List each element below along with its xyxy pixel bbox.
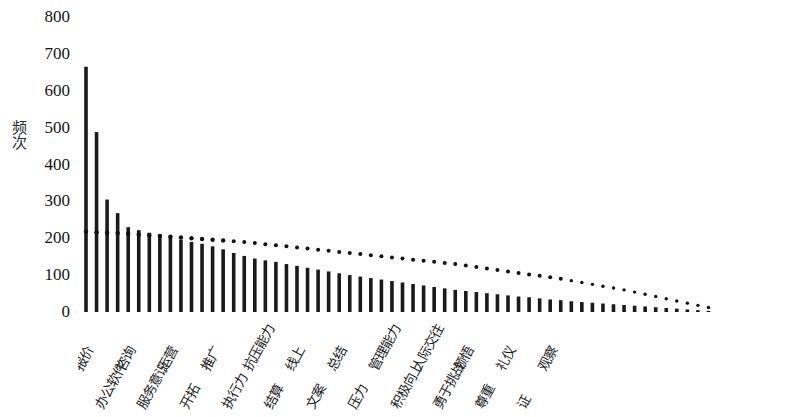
bar <box>242 256 246 312</box>
trend-point <box>517 271 521 275</box>
trend-point <box>548 275 552 279</box>
bar <box>538 298 542 312</box>
trend-point <box>210 238 214 242</box>
y-axis-tick-labels: 8007006005004003002001000 <box>22 0 70 417</box>
trend-point <box>158 234 162 238</box>
bar <box>105 200 109 312</box>
trend-point <box>358 252 362 256</box>
trend-point <box>686 301 689 304</box>
trend-point <box>295 245 299 249</box>
trend-point <box>168 235 172 239</box>
trend-point <box>348 251 352 255</box>
trend-point <box>263 242 267 246</box>
bar <box>137 230 141 312</box>
trend-point <box>401 257 405 261</box>
pareto-chart: 频次 8007006005004003002001000 报价办公软件咨询服务意… <box>0 0 797 417</box>
x-axis-tick-label: 文案 <box>304 382 328 411</box>
x-axis-tick-label: 人际交往 <box>409 322 445 373</box>
bar <box>126 227 130 312</box>
bar <box>633 306 637 312</box>
x-axis-tick-label: 结算 <box>262 382 286 411</box>
trend-point <box>464 264 468 268</box>
x-axis-tick-label: 尊重 <box>473 382 497 411</box>
trend-point <box>591 283 594 286</box>
bar <box>580 302 584 312</box>
trend-point <box>253 241 257 245</box>
x-axis-tick-label: 压力 <box>346 382 370 411</box>
bar <box>348 275 352 312</box>
bar <box>380 280 384 312</box>
bar <box>306 268 310 312</box>
y-axis-tick-100: 100 <box>22 266 70 283</box>
bar <box>506 295 510 312</box>
trend-point <box>443 261 447 265</box>
trend-point <box>570 279 573 282</box>
bar <box>686 309 690 312</box>
trend-point <box>284 244 288 248</box>
x-axis-tick-label: 咨询 <box>114 344 138 373</box>
trend-point <box>633 290 636 293</box>
trend-point <box>643 293 646 296</box>
trend-point <box>612 286 615 289</box>
trend-point <box>696 304 699 307</box>
x-axis-tick-label: 管理能力 <box>367 322 403 373</box>
y-axis-tick-600: 600 <box>22 82 70 99</box>
bar <box>200 244 204 312</box>
bar <box>475 292 479 312</box>
trend-point <box>327 249 331 253</box>
bar <box>190 242 194 312</box>
trend-point <box>126 232 130 236</box>
bar <box>211 246 215 312</box>
bar <box>517 297 521 312</box>
trend-point <box>84 229 88 233</box>
y-axis-tick-400: 400 <box>22 156 70 173</box>
x-axis-tick-labels: 报价办公软件咨询服务意识运营开拓推广执行力抗压能力结算线上文案总结压力管理能力积… <box>78 316 797 417</box>
bar <box>675 309 679 312</box>
x-axis-tick-label: 报价 <box>78 344 96 373</box>
y-axis-tick-500: 500 <box>22 119 70 136</box>
bar <box>148 233 152 312</box>
trend-point <box>559 277 563 281</box>
bar <box>422 285 426 312</box>
trend-point <box>707 306 710 309</box>
trend-point <box>601 284 604 287</box>
y-axis-tick-800: 800 <box>22 8 70 25</box>
bar <box>559 300 563 312</box>
y-axis-tick-200: 200 <box>22 229 70 246</box>
trend-point <box>115 231 119 235</box>
bar <box>369 278 373 312</box>
x-axis-tick-label: 总结 <box>325 344 349 373</box>
bar <box>411 284 415 312</box>
bar-series <box>84 67 710 312</box>
bar <box>601 304 605 312</box>
trend-point <box>675 299 678 302</box>
trend-point <box>665 297 668 300</box>
trend-point <box>506 269 510 273</box>
plot-area <box>78 8 778 320</box>
bar <box>527 297 531 312</box>
bar <box>453 290 457 312</box>
bar <box>464 291 468 312</box>
trend-point <box>221 238 225 242</box>
bar <box>654 307 658 312</box>
x-axis-tick-label: 观察 <box>536 344 560 373</box>
x-axis-tick-label: 证 <box>515 393 533 411</box>
bar <box>84 67 88 312</box>
trend-point <box>147 233 151 237</box>
bar <box>548 299 552 312</box>
x-axis-tick-label: 抗压能力 <box>240 322 276 373</box>
bar <box>264 260 268 312</box>
trend-point <box>622 288 625 291</box>
bar <box>285 264 289 312</box>
bar <box>179 240 183 312</box>
trend-point <box>274 243 278 247</box>
trend-point <box>369 253 373 257</box>
trend-point <box>453 262 457 266</box>
bar <box>390 281 394 312</box>
bar <box>643 306 647 312</box>
y-axis-tick-700: 700 <box>22 45 70 62</box>
bar <box>485 293 489 312</box>
y-axis-tick-0: 0 <box>22 303 70 320</box>
bar <box>169 236 173 312</box>
x-axis-tick-label: 开拓 <box>177 382 201 411</box>
